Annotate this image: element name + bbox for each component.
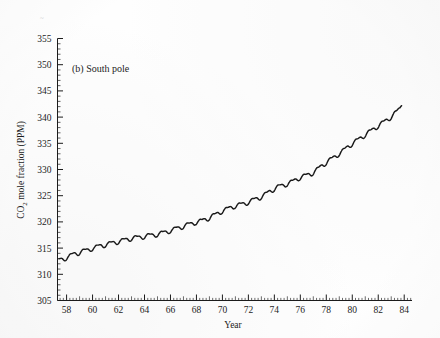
y-tick-label: 320 — [37, 217, 52, 227]
y-axis-title-group: CO2 mole fraction (PPM) — [16, 121, 29, 219]
y-tick-label: 310 — [37, 270, 52, 280]
x-tick-label: 66 — [166, 305, 176, 315]
y-axis-title-main: CO — [16, 206, 26, 219]
y-axis: 305310315320325330335340345350355 — [37, 34, 63, 306]
y-tick-label: 305 — [37, 296, 52, 306]
x-axis: 5860626466687072747678808284 — [58, 295, 413, 316]
y-tick-label: 350 — [37, 60, 52, 70]
x-tick-label: 74 — [270, 305, 280, 315]
x-tick-label: 70 — [218, 305, 228, 315]
y-axis-title-rest: mole fraction (PPM) — [16, 121, 27, 202]
x-tick-label: 78 — [322, 305, 332, 315]
x-tick-label: 80 — [348, 305, 358, 315]
y-tick-label: 315 — [37, 244, 52, 254]
y-tick-label: 325 — [37, 191, 52, 201]
co2-line-chart: 305310315320325330335340345350355 586062… — [0, 0, 440, 338]
x-tick-label: 72 — [244, 305, 254, 315]
x-tick-label: 64 — [140, 305, 150, 315]
y-tick-label: 355 — [37, 34, 52, 44]
panel-label: (b) South pole — [72, 63, 130, 75]
co2-data-line — [59, 106, 401, 261]
x-tick-label: 68 — [192, 305, 202, 315]
x-tick-label: 84 — [399, 305, 409, 315]
y-tick-label: 335 — [37, 139, 52, 149]
x-tick-label: 58 — [62, 305, 72, 315]
y-tick-label: 345 — [37, 86, 52, 96]
x-axis-title: Year — [224, 320, 242, 330]
svg-text:CO2 mole fraction (PPM): CO2 mole fraction (PPM) — [16, 121, 29, 219]
x-tick-label: 60 — [88, 305, 98, 315]
figure-panel: ~ 305310315320325330335340345350355 5860… — [0, 0, 440, 338]
x-tick-label: 62 — [114, 305, 124, 315]
x-tick-label: 82 — [373, 305, 383, 315]
y-tick-label: 330 — [37, 165, 52, 175]
y-tick-label: 340 — [37, 113, 52, 123]
x-tick-label: 76 — [296, 305, 306, 315]
